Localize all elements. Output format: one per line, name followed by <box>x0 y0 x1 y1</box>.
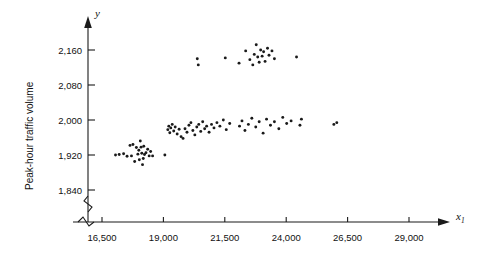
data-point <box>213 126 216 129</box>
x-tick-label: 16,500 <box>87 232 116 243</box>
data-point <box>142 157 145 160</box>
x-tick-label: 21,500 <box>210 232 239 243</box>
data-point <box>332 123 335 126</box>
data-point <box>299 124 302 127</box>
data-point <box>271 49 274 52</box>
y-axis-symbol: y <box>94 7 100 19</box>
data-point <box>256 56 259 59</box>
data-point <box>171 123 174 126</box>
x-tick-label: 26,500 <box>333 232 362 243</box>
data-point <box>196 57 199 60</box>
data-point <box>210 123 213 126</box>
y-tick-group: 1,8401,9202,0002,0802,160 <box>58 45 95 196</box>
data-point <box>140 146 143 149</box>
x-axis: x1 16,50019,00021,50024,00026,50029,000 <box>73 210 465 243</box>
data-point <box>238 125 241 128</box>
data-point <box>222 119 225 122</box>
data-point <box>138 158 141 161</box>
data-point <box>129 144 132 147</box>
y-axis-arrowhead <box>84 16 92 28</box>
y-tick-label: 2,080 <box>58 80 82 91</box>
data-point <box>178 128 181 131</box>
data-point <box>195 126 198 129</box>
data-point <box>135 146 138 149</box>
data-point <box>250 117 253 120</box>
data-point <box>149 150 152 153</box>
chart-svg: y 1,8401,9202,0002,0802,160 x1 16,50019,… <box>0 0 480 256</box>
data-point <box>225 128 228 131</box>
data-point <box>172 129 175 132</box>
data-point <box>243 129 246 132</box>
data-point <box>247 123 250 126</box>
data-point <box>132 143 135 146</box>
data-point <box>168 131 171 134</box>
data-point <box>169 126 172 129</box>
data-point <box>199 130 202 133</box>
data-point <box>187 124 190 127</box>
data-point <box>265 118 268 121</box>
data-point <box>281 116 284 119</box>
y-tick-label: 1,920 <box>58 150 82 161</box>
data-point <box>141 163 144 166</box>
scatter-plot-figure: y 1,8401,9202,0002,0802,160 x1 16,50019,… <box>0 0 480 256</box>
data-point <box>262 50 265 53</box>
data-point <box>148 154 151 157</box>
data-point <box>197 63 200 66</box>
data-point <box>285 122 288 125</box>
x-tick-label: 29,000 <box>394 232 423 243</box>
data-point <box>259 49 262 52</box>
x-tick-label: 24,000 <box>272 232 301 243</box>
data-point <box>258 120 261 123</box>
data-point <box>244 49 247 52</box>
data-point <box>269 124 272 127</box>
data-point <box>122 152 125 155</box>
data-point <box>215 121 218 124</box>
data-point <box>140 152 143 155</box>
data-point <box>238 62 241 65</box>
y-tick-label: 2,160 <box>58 45 82 56</box>
data-point <box>253 53 256 56</box>
data-point <box>266 47 269 50</box>
data-point <box>262 132 265 135</box>
data-point <box>182 137 185 140</box>
data-points-layer <box>114 43 338 166</box>
y-tick-label: 1,840 <box>58 185 82 196</box>
data-point <box>142 145 145 148</box>
data-point <box>136 153 139 156</box>
data-point <box>295 56 298 59</box>
data-point <box>118 153 121 156</box>
data-point <box>277 127 280 130</box>
y-axis-label: Peak-hour traffic volume <box>24 81 35 190</box>
data-point <box>335 121 338 124</box>
data-point <box>174 126 177 129</box>
data-point <box>218 125 221 128</box>
y-tick-label: 2,000 <box>58 115 82 126</box>
data-point <box>258 61 261 64</box>
x-axis-arrowhead <box>438 218 450 226</box>
data-point <box>224 56 227 59</box>
data-point <box>201 120 204 123</box>
data-point <box>290 119 293 122</box>
data-point <box>197 123 200 126</box>
data-point <box>191 129 194 132</box>
data-point <box>205 125 208 128</box>
x-axis-title: x1 <box>455 210 465 225</box>
data-point <box>193 133 196 136</box>
data-point <box>300 118 303 121</box>
data-point <box>114 154 117 157</box>
data-point <box>264 60 267 63</box>
y-axis: y 1,8401,9202,0002,0802,160 <box>58 7 100 215</box>
data-point <box>176 133 179 136</box>
x-tick-label: 19,000 <box>149 232 178 243</box>
data-point <box>228 122 231 125</box>
data-point <box>268 54 271 57</box>
data-point <box>163 154 166 157</box>
data-point <box>166 128 169 131</box>
data-point <box>146 148 149 151</box>
data-point <box>184 127 187 130</box>
data-point <box>189 121 192 124</box>
data-point <box>248 58 251 61</box>
data-point <box>273 120 276 123</box>
data-point <box>145 151 148 154</box>
x-tick-group: 16,50019,00021,50024,00026,50029,000 <box>87 217 423 243</box>
